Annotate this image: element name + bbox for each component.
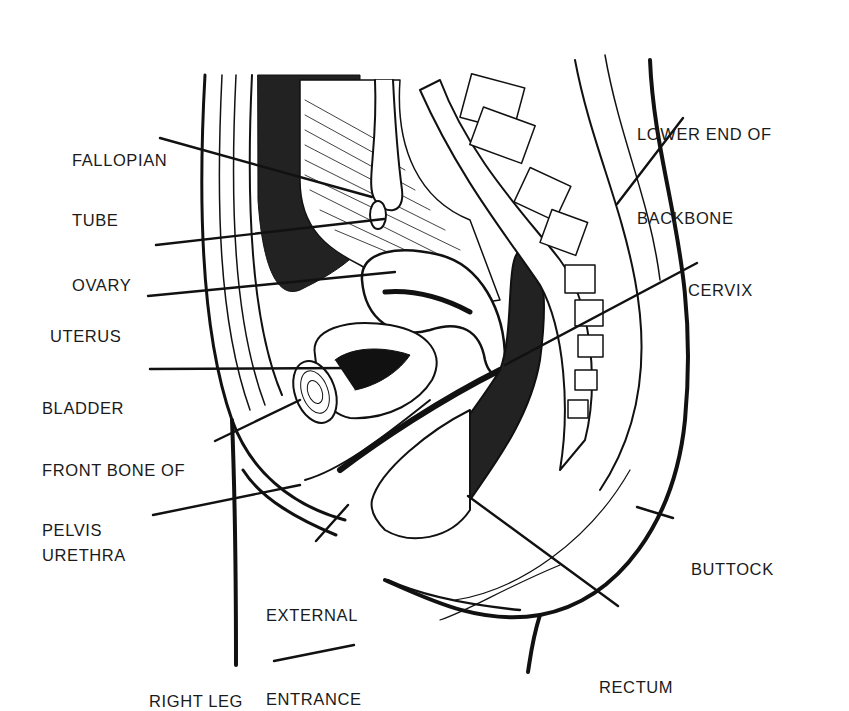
label-line: EXTERNAL bbox=[266, 601, 362, 629]
label-line: RIGHT LEG bbox=[149, 691, 243, 711]
leader-uterus bbox=[148, 272, 395, 296]
label-line: UTERUS bbox=[50, 326, 121, 346]
label-line: BUTTOCK bbox=[691, 559, 774, 579]
label-cervix: CERVIX bbox=[688, 240, 753, 340]
label-line: CERVIX bbox=[688, 280, 753, 300]
label-line: RECTUM bbox=[599, 674, 738, 700]
label-line: URETHRA bbox=[42, 545, 126, 565]
label-buttock: BUTTOCK bbox=[691, 519, 774, 619]
leader-vagina-curve bbox=[388, 580, 520, 610]
label-urethra: URETHRA bbox=[42, 505, 126, 605]
label-external-entrance-to-vagina: EXTERNAL ENTRANCE TO VAGINA bbox=[266, 545, 362, 711]
leader-rectum bbox=[468, 496, 618, 606]
label-line: TUBE bbox=[72, 210, 167, 230]
label-line: BACKBONE bbox=[637, 204, 772, 232]
thigh-crease bbox=[243, 470, 336, 535]
right-leg-outline bbox=[232, 420, 236, 665]
leader-buttock bbox=[637, 507, 673, 518]
ovary-shape bbox=[370, 201, 386, 229]
label-line: ENTRANCE bbox=[266, 685, 362, 711]
label-right-leg: RIGHT LEG bbox=[149, 651, 243, 711]
label-line: BLADDER bbox=[42, 398, 124, 418]
label-rectum: RECTUM (LARGE BOWEL) bbox=[599, 622, 738, 711]
label-line: FRONT BONE OF bbox=[42, 460, 185, 480]
label-line: LOWER END OF bbox=[637, 120, 772, 148]
label-line: FALLOPIAN bbox=[72, 150, 167, 170]
gluteal-fold bbox=[528, 615, 540, 672]
leader-bladder bbox=[150, 368, 352, 369]
anatomy-diagram: FALLOPIAN TUBE OVARY UTERUS BLADDER FRON… bbox=[0, 0, 849, 711]
